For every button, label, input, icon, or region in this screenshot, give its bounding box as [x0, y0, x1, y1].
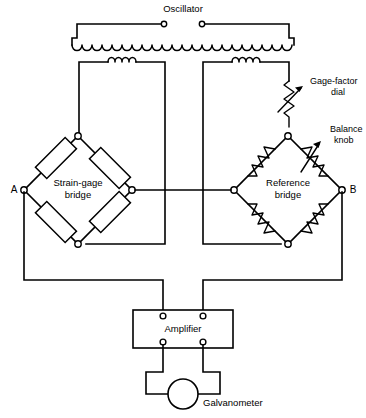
- reference-bridge-label-line1: Reference: [266, 177, 310, 188]
- transformer-primary-winding: [72, 45, 292, 51]
- gage-factor-dial-label-line1: Gage-factor: [310, 76, 358, 86]
- right-secondary-loop-wire-right: [260, 62, 289, 81]
- terminal-b-label: B: [350, 184, 357, 195]
- amplifier-label: Amplifier: [165, 323, 202, 334]
- amplifier-group[interactable]: Amplifier: [133, 310, 233, 348]
- strain-bridge-node-bottom: [75, 241, 81, 247]
- gage-factor-dial-label-line2: dial: [331, 87, 345, 97]
- right-secondary-loop-wire-left: [203, 62, 281, 244]
- oscillator-lead-left: [72, 24, 163, 45]
- balance-knob-label-line2: knob: [334, 135, 354, 145]
- amplifier-to-galvanometer-wire-left: [146, 345, 168, 394]
- gage-factor-dial-group[interactable]: Gage-factor dial: [278, 76, 358, 127]
- oscillator-lead-right: [203, 24, 294, 45]
- reference-bridge-label-line2: bridge: [275, 189, 301, 200]
- galvanometer-symbol[interactable]: [168, 379, 198, 409]
- gage-factor-dial-arrowhead: [295, 86, 303, 92]
- circuit-schematic: Oscillator Gage-factor: [0, 0, 366, 418]
- oscillator-terminal-right[interactable]: [199, 21, 204, 26]
- amplifier-to-galvanometer-wire-right: [198, 345, 220, 394]
- oscillator-label: Oscillator: [163, 3, 203, 14]
- left-secondary-group: [78, 58, 165, 245]
- strain-gage-1-top-left[interactable]: [35, 138, 76, 179]
- terminal-a-label: A: [11, 184, 18, 195]
- galvanometer-label: Galvanometer: [203, 397, 263, 408]
- reference-bridge-node-bottom: [285, 241, 291, 247]
- strain-gage-bridge-label-line1: Strain-gage: [53, 177, 102, 188]
- strain-gage-bridge-group: Strain-gage bridge A: [11, 133, 136, 247]
- strain-gage-bridge-label-line2: bridge: [65, 189, 91, 200]
- amplifier-input-terminal-left[interactable]: [160, 313, 166, 319]
- amplifier-input-terminal-right[interactable]: [200, 313, 206, 319]
- strain-bridge-node-top: [75, 133, 81, 139]
- reference-bridge-node-top: [285, 133, 291, 139]
- oscillator-terminal-left[interactable]: [161, 21, 166, 26]
- right-secondary-group: [203, 58, 289, 245]
- amplifier-output-terminal-left[interactable]: [160, 339, 166, 345]
- left-secondary-loop-wire: [79, 62, 108, 136]
- strain-gage-4-bottom-right[interactable]: [89, 192, 130, 233]
- balance-knob-label-line1: Balance: [330, 124, 363, 134]
- oscillator-group: Oscillator: [72, 3, 294, 51]
- figure-strain-gage-circuit: Oscillator Gage-factor: [0, 0, 366, 418]
- strain-gage-3-bottom-left[interactable]: [35, 201, 76, 242]
- amplifier-output-terminal-right[interactable]: [200, 339, 206, 345]
- transformer-secondary-right-winding: [232, 58, 260, 63]
- transformer-secondary-left-winding: [108, 58, 136, 63]
